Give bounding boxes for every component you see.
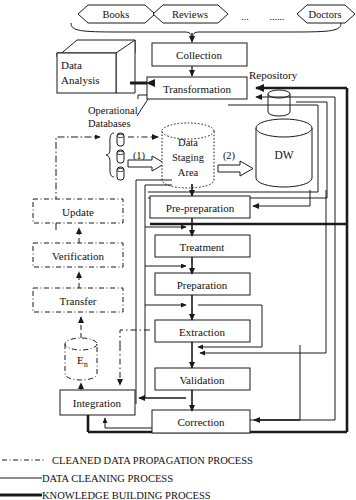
en-label-base: E [77, 354, 84, 366]
source-label-books: Books [103, 9, 130, 20]
dw-small-cylinder [268, 90, 290, 116]
transformation-label: Transformation [163, 83, 232, 95]
transfer-box[interactable]: Transfer [33, 288, 123, 312]
dw-cylinder[interactable]: DW [256, 119, 312, 187]
source-label-reviews: Reviews [172, 9, 208, 20]
diagram-canvas: Books Reviews ... ...... Doctors Data An… [0, 0, 356, 500]
validation-label: Validation [179, 374, 225, 386]
treatment-label: Treatment [180, 241, 225, 253]
repository-label: Repository [249, 69, 298, 81]
en-cylinder[interactable]: E n [65, 338, 97, 380]
source-ellipsis-1: ... [241, 11, 249, 22]
en-label-subscript: n [84, 360, 88, 369]
collection-box[interactable]: Collection [152, 43, 247, 66]
legend: CLEANED DATA PROPAGATION PROCESS DATA CL… [0, 455, 253, 500]
staging-label-line2: Staging [172, 152, 205, 163]
db-icon-1 [117, 133, 124, 146]
update-label: Update [62, 206, 94, 218]
data-analysis-label-line1: Data [61, 59, 82, 71]
verification-box[interactable]: Verification [33, 243, 123, 267]
validation-box[interactable]: Validation [155, 368, 250, 390]
integration-box[interactable]: Integration [60, 390, 135, 415]
legend-label-knowledge-building: KNOWLEDGE BUILDING PROCESS [42, 490, 211, 500]
transfer-label: Transfer [60, 295, 97, 307]
data-analysis-label-line2: Analysis [61, 74, 100, 86]
source-node-books[interactable]: Books [78, 5, 155, 23]
source-node-doctors[interactable]: Doctors [297, 5, 355, 23]
preparation-box[interactable]: Preparation [155, 273, 250, 295]
source-ellipsis-2: ...... [270, 11, 285, 22]
extraction-label: Extraction [179, 326, 225, 338]
step-2-label: (2) [223, 150, 236, 162]
transformation-box[interactable]: Transformation [147, 77, 247, 99]
source-node-reviews[interactable]: Reviews [153, 5, 228, 23]
data-analysis-box[interactable]: Data Analysis [57, 40, 135, 93]
db-icon-3 [117, 167, 124, 180]
dw-label: DW [274, 149, 293, 161]
staging-label-line3: Area [178, 167, 199, 178]
verification-label: Verification [52, 250, 104, 262]
source-nodes: Books Reviews ... ...... Doctors [71, 5, 355, 42]
hollow-arrow-step-2 [218, 161, 253, 176]
db-icon-2 [117, 150, 124, 163]
pre-preparation-label: Pre-preparation [166, 202, 235, 214]
staging-label-line1: Data [178, 137, 198, 148]
extraction-box[interactable]: Extraction [155, 320, 250, 342]
legend-label-data-cleaning: DATA CLEANING PROCESS [42, 473, 173, 484]
data-staging-area-cylinder[interactable]: Data Staging Area [162, 123, 214, 188]
arrow-correction-to-integration [105, 418, 152, 428]
architecture-diagram: Books Reviews ... ...... Doctors Data An… [0, 0, 356, 500]
legend-label-cleaned-data: CLEANED DATA PROPAGATION PROCESS [52, 455, 253, 466]
operational-databases-label-line2: Databases [88, 118, 131, 129]
operational-databases-group[interactable]: Operational Databases [88, 99, 148, 180]
pre-preparation-box[interactable]: Pre-preparation [150, 196, 250, 218]
preparation-label: Preparation [177, 279, 228, 291]
integration-label: Integration [73, 397, 122, 409]
source-label-doctors: Doctors [308, 9, 341, 20]
correction-box[interactable]: Correction [152, 410, 250, 433]
collection-label: Collection [176, 49, 222, 61]
treatment-box[interactable]: Treatment [155, 235, 250, 257]
correction-label: Correction [177, 416, 225, 428]
update-box[interactable]: Update [33, 199, 123, 223]
operational-databases-label-line1: Operational [88, 105, 138, 116]
